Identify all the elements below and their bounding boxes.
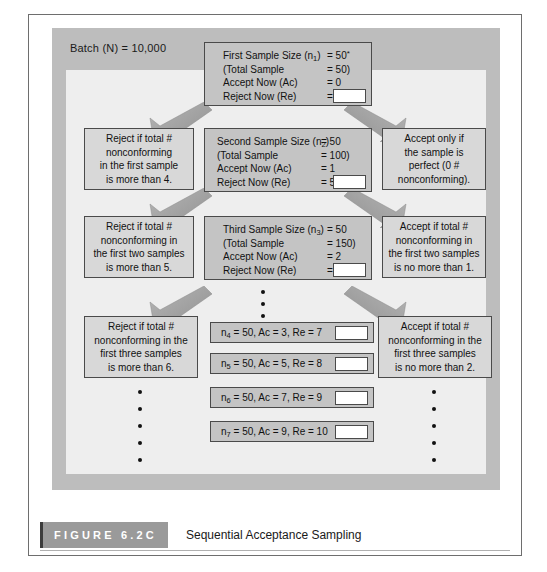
stage-1-blank-field[interactable]: [333, 89, 366, 103]
stage-1-rows: First Sample Size (n1) = 50* (Total Samp…: [205, 43, 371, 109]
stage-3-box[interactable]: Third Sample Size (n3) = 50 (Total Sampl…: [204, 216, 372, 280]
stage-3-rows: Third Sample Size (n3) = 50 (Total Sampl…: [205, 217, 371, 283]
stage-1-row-1: (Total Sample = 50): [223, 63, 371, 77]
stage-2-row-0: Second Sample Size (n2) = 50: [217, 135, 371, 149]
stage-3-row-2: Accept Now (Ac) = 2: [223, 250, 371, 264]
center-vertical-ellipsis: [261, 290, 265, 326]
stage-2-row-1: (Total Sample = 100): [217, 149, 371, 163]
reject-2-box[interactable]: Reject if total # nonconforming in the f…: [84, 216, 194, 278]
accept-1-lines: Accept only if the sample is perfect (0 …: [387, 132, 481, 186]
reject-1-box[interactable]: Reject if total # nonconforming in the f…: [84, 128, 194, 190]
figure-caption: FIGURE 6.2C Sequential Acceptance Sampli…: [40, 522, 510, 548]
stage-2-box[interactable]: Second Sample Size (n2) = 50 (Total Samp…: [204, 128, 372, 192]
stage-2-row-2: Accept Now (Ac) = 1: [217, 162, 371, 176]
stage-1-row-2: Accept Now (Ac) = 0: [223, 76, 371, 90]
reject-3-lines: Reject if total # nonconforming in the f…: [89, 320, 193, 374]
batch-label: Batch (N) = 10,000: [70, 42, 166, 54]
n7-blank-field[interactable]: [335, 425, 368, 439]
n6-blank-field[interactable]: [335, 391, 368, 405]
stage-3-row-0: Third Sample Size (n3) = 50: [223, 223, 371, 237]
n5-blank-field[interactable]: [335, 357, 368, 371]
right-vertical-ellipsis: [432, 390, 436, 475]
figure-number-tab: FIGURE 6.2C: [40, 522, 168, 548]
n7-row[interactable]: n7 = 50, Ac = 9, Re = 10: [210, 421, 374, 442]
n4-blank-field[interactable]: [335, 326, 368, 340]
reject-1-lines: Reject if total # nonconforming in the f…: [89, 132, 189, 186]
stage-1-box[interactable]: First Sample Size (n1) = 50* (Total Samp…: [204, 42, 372, 106]
n6-row[interactable]: n6 = 50, Ac = 7, Re = 9: [210, 387, 374, 408]
reject-2-lines: Reject if total # nonconforming in the f…: [89, 220, 189, 274]
diagram-panel: Batch (N) = 10,000: [52, 28, 500, 490]
stage-3-row-1: (Total Sample = 150): [223, 237, 371, 251]
stage-1-row-0: First Sample Size (n1) = 50*: [223, 49, 371, 63]
stage-2-blank-field[interactable]: [333, 175, 366, 189]
n4-row[interactable]: n4 = 50, Ac = 3, Re = 7: [210, 322, 374, 343]
left-vertical-ellipsis: [138, 390, 142, 475]
figure-title: Sequential Acceptance Sampling: [186, 522, 361, 548]
reject-3-box[interactable]: Reject if total # nonconforming in the f…: [84, 316, 198, 378]
accept-2-lines: Accept if total # nonconforming in the f…: [387, 220, 481, 274]
caption-underline: [40, 550, 510, 551]
stage-3-blank-field[interactable]: [333, 263, 366, 277]
accept-3-box[interactable]: Accept if total # nonconforming in the f…: [378, 316, 492, 378]
stage-2-rows: Second Sample Size (n2) = 50 (Total Samp…: [205, 129, 371, 195]
accept-1-box[interactable]: Accept only if the sample is perfect (0 …: [382, 128, 486, 190]
accept-3-lines: Accept if total # nonconforming in the f…: [383, 320, 487, 374]
figure-page: Batch (N) = 10,000: [0, 0, 547, 572]
n5-row[interactable]: n5 = 50, Ac = 5, Re = 8: [210, 353, 374, 374]
accept-2-box[interactable]: Accept if total # nonconforming in the f…: [382, 216, 486, 278]
